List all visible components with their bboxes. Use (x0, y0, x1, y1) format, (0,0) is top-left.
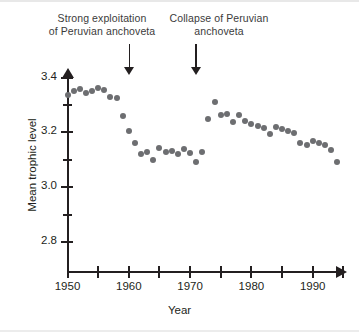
y-tick (61, 186, 73, 188)
x-tick (220, 266, 222, 278)
annotation-arrow-down-icon (124, 44, 135, 68)
data-point (144, 149, 150, 155)
y-tick-label: 3.4 (31, 70, 57, 82)
data-point (255, 123, 261, 129)
x-tick (342, 266, 344, 278)
data-point (248, 121, 254, 127)
data-point (316, 140, 322, 146)
data-point (328, 147, 334, 153)
data-point (310, 138, 316, 144)
data-point (261, 125, 267, 131)
data-point (224, 111, 230, 117)
x-tick-label: 1970 (170, 280, 210, 292)
x-tick (312, 266, 314, 278)
data-point (71, 88, 77, 94)
data-point (193, 159, 199, 165)
data-point (236, 112, 242, 118)
data-point (230, 119, 236, 125)
x-tick (189, 266, 191, 278)
x-tick-label: 1950 (48, 280, 88, 292)
y-tick (63, 214, 72, 216)
data-point (334, 159, 340, 165)
data-point (242, 118, 248, 124)
data-point (212, 99, 218, 105)
x-tick (128, 266, 130, 278)
x-tick-label: 1980 (231, 280, 271, 292)
x-tick (250, 266, 252, 278)
y-tick (61, 241, 73, 243)
data-point (163, 149, 169, 155)
data-point (95, 85, 101, 91)
annotation-arrow-down-icon (190, 44, 201, 68)
data-point (279, 126, 285, 132)
y-tick (61, 131, 73, 133)
x-tick (67, 266, 69, 278)
data-point (138, 151, 144, 157)
x-axis-title: Year (0, 304, 359, 316)
y-tick-label: 2.8 (31, 234, 57, 246)
x-tick (281, 266, 283, 278)
data-point (83, 90, 89, 96)
data-point (218, 112, 224, 118)
y-tick (61, 77, 73, 79)
data-point (132, 140, 138, 146)
data-point (267, 131, 273, 137)
data-point (205, 116, 211, 122)
y-tick (63, 159, 72, 161)
y-tick (63, 104, 72, 106)
x-tick-label: 1990 (293, 280, 333, 292)
x-tick-label: 1960 (109, 280, 149, 292)
x-axis-line (67, 271, 339, 273)
data-point (156, 145, 162, 151)
y-axis-title: Mean trophic level (26, 95, 38, 235)
data-point (175, 151, 181, 157)
data-point (297, 140, 303, 146)
data-point (120, 113, 126, 119)
data-point (77, 86, 83, 92)
data-point (199, 149, 205, 155)
data-point (187, 150, 193, 156)
data-point (126, 128, 132, 134)
data-point (107, 94, 113, 100)
data-point (181, 146, 187, 152)
data-point (291, 130, 297, 136)
data-point (285, 128, 291, 134)
x-tick (97, 266, 99, 278)
data-point (304, 142, 310, 148)
data-point (89, 88, 95, 94)
data-point (169, 148, 175, 154)
data-point (101, 87, 107, 93)
plot-area: 2.83.03.23.4 19501960197019801990 (0, 0, 359, 332)
y-axis-line (67, 77, 69, 273)
data-point (150, 157, 156, 163)
data-point (65, 92, 71, 98)
x-tick (158, 266, 160, 278)
chart-figure: Strong exploitation of Peruvian anchovet… (0, 0, 359, 332)
data-point (322, 142, 328, 148)
data-point (273, 124, 279, 130)
data-point (114, 95, 120, 101)
